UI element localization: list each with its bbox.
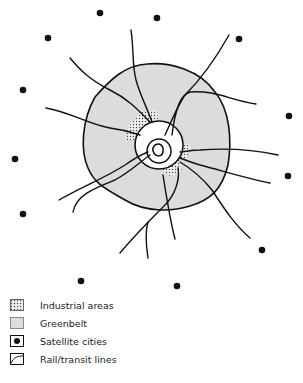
legend-label: Industrial areas — [40, 300, 114, 311]
industrial-swatch-icon — [10, 299, 24, 311]
legend-label: Rail/transit lines — [40, 354, 117, 365]
legend-item-industrial: Industrial areas — [10, 296, 117, 314]
greenbelt-city-diagram — [0, 0, 303, 290]
greenbelt-swatch-icon — [10, 317, 24, 329]
legend-label: Greenbelt — [40, 318, 87, 329]
city-core — [153, 144, 163, 156]
legend: Industrial areas Greenbelt Satellite cit… — [10, 296, 117, 368]
rail-line-swatch-icon — [10, 353, 24, 365]
legend-item-satellite: Satellite cities — [10, 332, 117, 350]
legend-item-rail: Rail/transit lines — [10, 350, 117, 368]
satellite-city-swatch-icon — [10, 335, 24, 347]
legend-item-greenbelt: Greenbelt — [10, 314, 117, 332]
legend-label: Satellite cities — [40, 336, 107, 347]
